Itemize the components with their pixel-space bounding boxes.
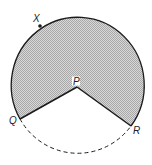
label-p: P	[73, 76, 80, 87]
sector-diagram: P X Q R	[0, 0, 152, 165]
minor-arc-dashed	[20, 119, 131, 153]
point-x-dot	[38, 24, 42, 28]
shaded-major-sector	[11, 17, 144, 126]
label-r: R	[133, 125, 140, 136]
label-x: X	[32, 13, 40, 24]
label-q: Q	[9, 115, 17, 126]
